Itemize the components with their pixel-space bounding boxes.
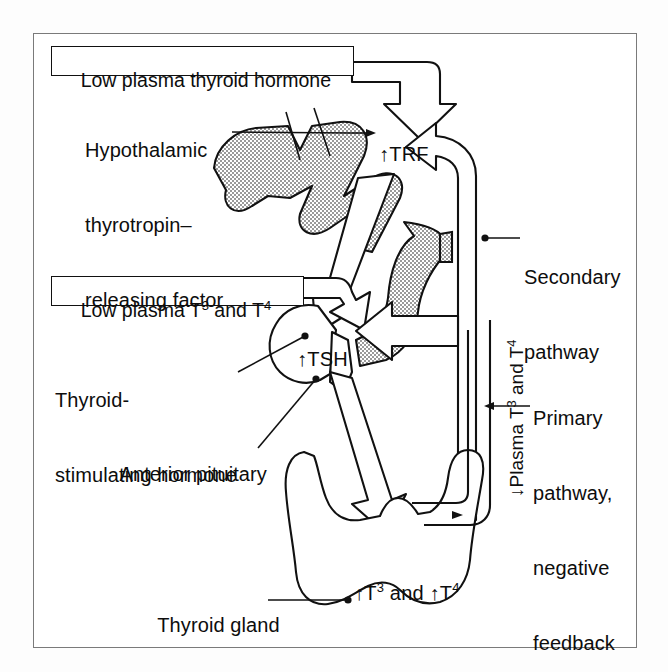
label-tsh-line1: Thyroid- [55, 388, 237, 413]
label-hypothalamic-line2: thyrotropin– [85, 213, 223, 238]
hormone-tsh: ↑TSH [274, 325, 348, 394]
label-hypothalamic-line3: releasing factor [85, 288, 223, 313]
label-primary-line4: feedback [533, 631, 615, 656]
label-thyroid-gland: Thyroid gland [135, 588, 280, 663]
plasma-t3-t4-mid: and T [506, 347, 527, 401]
t3-up-arrow-icon: ↑ [354, 582, 364, 604]
label-anterior-pituitary-text: Anterior pituitary [120, 463, 267, 485]
t4-up-arrow-icon: ↑ [430, 582, 440, 604]
label-plasma-t3-t4-vertical: ↓Plasma T3 and T4 [484, 339, 550, 518]
t4-superscript: 4 [264, 297, 271, 312]
plasma-down-arrow-icon: ↓ [506, 487, 527, 497]
output-t3-text: T [364, 582, 376, 604]
output-t3-superscript: 3 [377, 580, 384, 595]
label-hypothalamic-line1: Hypothalamic [85, 138, 223, 163]
plasma-t3-t4-pre: Plasma T [506, 407, 527, 487]
label-primary-line3: negative [533, 556, 615, 581]
hormone-output-t3-t4: ↑T3 and ↑T4 [331, 559, 460, 628]
label-thyroid-gland-text: Thyroid gland [157, 614, 279, 636]
leader-secondary-pathway [481, 234, 520, 241]
box-low-plasma-thyroid-hormone: Low plasma thyroid hormone [51, 46, 354, 76]
hormone-trf: ↑TRF [356, 120, 429, 189]
plasma-t3-superscript: 3 [504, 400, 519, 407]
plasma-t4-superscript: 4 [504, 339, 519, 346]
label-secondary-line1: Secondary [524, 265, 621, 290]
trf-text: TRF [389, 143, 428, 165]
output-and-text: and [384, 582, 429, 604]
label-anterior-pituitary: Anterior pituitary [98, 437, 267, 512]
tsh-text: TSH [307, 348, 348, 370]
label-hypothalamic-trf: Hypothalamic thyrotropin– releasing fact… [85, 88, 223, 363]
trf-up-arrow-icon: ↑ [379, 143, 389, 165]
tsh-up-arrow-icon: ↑ [297, 348, 307, 370]
output-t4-superscript: 4 [452, 580, 459, 595]
figure-page: Low plasma thyroid hormone Low plasma T3… [0, 0, 668, 672]
output-t4-text: T [440, 582, 452, 604]
